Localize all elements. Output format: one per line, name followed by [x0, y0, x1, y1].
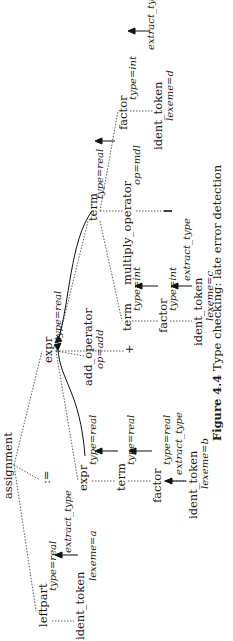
attr-expr-left-type: type=real [88, 415, 98, 465]
attr-factor-left-type: type=real [162, 415, 172, 465]
attr-term-left-type: type=real [126, 415, 136, 465]
syntax-tree-diagram: assignment leftpart type=real extract_ty… [0, 0, 233, 641]
plus-token: + [124, 344, 136, 354]
node-ident-token-d: ident_token [153, 82, 165, 150]
attr-add-op: op=add [95, 329, 105, 369]
node-ident-token-c: ident_token [193, 278, 205, 346]
node-multiply-operator: multiply_operator [122, 181, 134, 285]
attr-extract-c: extract_type [182, 218, 192, 281]
attr-factor-mid-type: type=int [168, 267, 178, 311]
attr-lexeme-b: lexeme=b [200, 438, 210, 489]
node-expr-left: expr [78, 465, 90, 491]
node-term-left: term [116, 463, 128, 491]
node-add-operator: add_operator [83, 308, 95, 386]
node-ident-token-b: ident_token [188, 451, 200, 519]
node-factor-left: factor [152, 468, 164, 503]
caption-text: Type checking: late error detection [210, 165, 224, 371]
attr-factor-right-type: type=int [128, 56, 138, 100]
attr-extract-d: extract_type [146, 0, 156, 50]
attr-lexeme-d: lexeme=d [165, 70, 175, 121]
figure-caption: Figure 4.4 Type checking: late error det… [212, 165, 224, 441]
caption-label: Figure 4.4 [210, 375, 224, 441]
attr-extract-b: extract_type [174, 412, 184, 475]
attr-leftpart-type: type=real [48, 541, 58, 591]
assign-operator: := [41, 470, 53, 484]
attr-term-right-type: type=real [95, 149, 105, 199]
attr-expr-top-type: type=real [53, 291, 63, 341]
node-factor-right: factor [118, 95, 130, 130]
attr-lexeme-a: lexeme=a [88, 531, 98, 581]
attr-mul-op: op=mdl [132, 145, 142, 185]
attr-leftpart-extract: extract_type [63, 490, 73, 553]
node-ident-token-a: ident_token [75, 572, 87, 640]
node-assignment: assignment [3, 432, 15, 499]
